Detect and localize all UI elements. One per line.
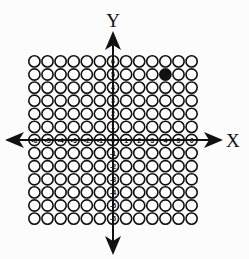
grid-circle	[121, 148, 132, 159]
grid-circle	[147, 148, 158, 159]
grid-circle	[160, 95, 171, 106]
grid-circle	[94, 95, 105, 106]
grid-circle	[42, 200, 53, 211]
x-tick-label: -2	[84, 137, 90, 144]
grid-circle	[81, 174, 92, 185]
y-tick-label: 2	[111, 110, 115, 117]
grid-circle	[173, 56, 184, 67]
grid-circle	[147, 187, 158, 198]
grid-circle	[68, 95, 79, 106]
grid-circle	[29, 82, 40, 93]
grid-circle	[81, 187, 92, 198]
grid-circle	[173, 200, 184, 211]
grid-circle	[173, 161, 184, 172]
grid-circle	[94, 213, 105, 224]
y-tick-label: 1	[111, 123, 115, 130]
grid-circle	[134, 121, 145, 132]
grid-circle	[42, 69, 53, 80]
grid-circle	[55, 95, 66, 106]
grid-circle	[173, 82, 184, 93]
grid-circle	[121, 69, 132, 80]
grid-circle	[134, 161, 145, 172]
grid-circle	[134, 148, 145, 159]
y-tick-label: -2	[110, 163, 116, 170]
x-tick-label: 1	[124, 137, 128, 144]
grid-circle	[81, 213, 92, 224]
grid-circle	[55, 121, 66, 132]
grid-circle	[186, 95, 197, 106]
grid-circle	[68, 69, 79, 80]
grid-circle	[94, 161, 105, 172]
grid-circle	[42, 187, 53, 198]
grid-circle	[42, 108, 53, 119]
x-tick-label: 3	[150, 137, 154, 144]
coordinate-grid-diagram: Y X -6-5-4-3-2-10123456654321-1-2-3-4-5-…	[0, 0, 249, 259]
grid-circle	[68, 200, 79, 211]
grid-circle	[147, 213, 158, 224]
grid-circle	[29, 121, 40, 132]
grid-circle	[121, 187, 132, 198]
grid-circle	[29, 148, 40, 159]
grid-circle	[29, 95, 40, 106]
grid-circle	[160, 161, 171, 172]
grid-circle	[55, 174, 66, 185]
grid-circle	[160, 174, 171, 185]
grid-circle	[121, 95, 132, 106]
grid-circle	[81, 69, 92, 80]
grid-circle	[55, 200, 66, 211]
grid-circle	[173, 187, 184, 198]
grid-circle	[121, 161, 132, 172]
grid-circle	[68, 161, 79, 172]
grid-circle	[55, 213, 66, 224]
grid-circle	[55, 82, 66, 93]
x-tick-label: 6	[190, 137, 194, 144]
grid-circle	[68, 82, 79, 93]
x-tick-label: -1	[97, 137, 103, 144]
grid-circle	[147, 108, 158, 119]
grid-circle	[186, 213, 197, 224]
y-tick-label: 4	[111, 84, 115, 91]
grid-circle	[173, 69, 184, 80]
grid-circle	[121, 108, 132, 119]
grid-circle	[81, 161, 92, 172]
grid-circle	[42, 174, 53, 185]
grid-circle	[173, 148, 184, 159]
y-tick-label: 5	[111, 71, 115, 78]
grid-circle	[29, 213, 40, 224]
y-tick-label: -3	[110, 176, 116, 183]
y-tick-label: 6	[111, 58, 115, 65]
grid-circle	[160, 82, 171, 93]
grid-circle	[42, 95, 53, 106]
x-tick-label: -4	[57, 137, 63, 144]
grid-circle	[160, 121, 171, 132]
grid-circle	[55, 161, 66, 172]
grid-circle	[29, 56, 40, 67]
grid-circle	[68, 56, 79, 67]
grid-circle	[121, 56, 132, 67]
grid-circle	[186, 82, 197, 93]
grid-circle	[94, 121, 105, 132]
grid-circle	[55, 187, 66, 198]
grid-circle	[94, 200, 105, 211]
grid-circle	[55, 108, 66, 119]
grid-circle	[173, 108, 184, 119]
grid-circle	[121, 82, 132, 93]
grid-circle	[134, 213, 145, 224]
x-tick-label: -5	[44, 137, 50, 144]
grid-circle	[42, 148, 53, 159]
grid-circle	[134, 187, 145, 198]
grid-circle	[81, 148, 92, 159]
grid-circle	[134, 200, 145, 211]
grid-circle	[121, 200, 132, 211]
grid-circle	[186, 174, 197, 185]
grid-circle	[147, 121, 158, 132]
grid-circle	[94, 56, 105, 67]
grid-circle	[147, 200, 158, 211]
grid-circle	[94, 187, 105, 198]
grid-circle	[147, 161, 158, 172]
filled-point	[160, 69, 171, 80]
grid-circle	[42, 82, 53, 93]
grid-circle	[29, 69, 40, 80]
grid-circle	[160, 56, 171, 67]
grid-circle	[29, 200, 40, 211]
